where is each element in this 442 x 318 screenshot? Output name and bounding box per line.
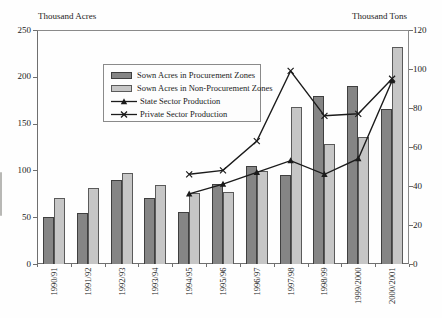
legend-label: Sown Acres in Procurement Zones <box>137 69 255 82</box>
legend-item-private-sector: Private Sector Production <box>111 108 260 121</box>
non-procurement-bar-swatch <box>111 85 132 92</box>
left-axis-tick <box>33 77 37 78</box>
x-marker <box>254 138 260 144</box>
triangle-marker <box>287 157 293 163</box>
bottom-axis-tick <box>206 264 207 267</box>
x-axis-label: 1997/98 <box>285 268 296 314</box>
right-y-axis-label: 120 <box>413 25 441 36</box>
left-y-axis-label: 250 <box>0 25 31 36</box>
left-y-axis-label: 150 <box>0 118 31 129</box>
bottom-axis-tick <box>71 264 72 267</box>
bottom-axis-tick <box>172 264 173 267</box>
right-axis-title: Thousand Tons <box>352 11 407 21</box>
right-axis-tick <box>409 69 413 70</box>
x-axis-label: 1999/2000 <box>353 268 364 314</box>
legend-label: Private Sector Production <box>140 108 227 121</box>
legend-item-non-procurement-zones: Sown Acres in Non-Procurement Zones <box>111 82 260 95</box>
left-axis-title: Thousand Acres <box>38 11 96 21</box>
left-axis-tick <box>33 124 37 125</box>
chart: Thousand Acres Thousand Tons 05010015020… <box>0 0 442 318</box>
right-axis-tick <box>409 108 413 109</box>
x-axis-label: 1992/93 <box>116 268 127 314</box>
left-y-axis-label: 100 <box>0 165 31 176</box>
bottom-axis-tick <box>409 264 410 267</box>
left-y-axis-label: 200 <box>0 71 31 82</box>
x-axis-label: 1996/97 <box>251 268 262 314</box>
left-y-axis-label: 50 <box>0 212 31 223</box>
bottom-axis-tick <box>274 264 275 267</box>
left-axis-tick <box>33 170 37 171</box>
legend-item-state-sector: State Sector Production <box>111 95 260 108</box>
x-axis-label: 1994/95 <box>184 268 195 314</box>
x-axis-label: 1993/94 <box>150 268 161 314</box>
x-axis-label: 1991/92 <box>82 268 93 314</box>
right-axis-tick <box>409 186 413 187</box>
triangle-marker-line-icon <box>111 97 137 106</box>
bottom-axis-tick <box>375 264 376 267</box>
x-axis-label: 1998/99 <box>319 268 330 314</box>
left-y-axis-label: 0 <box>0 259 31 270</box>
triangle-marker <box>355 155 361 161</box>
x-axis-label: 1995/96 <box>218 268 229 314</box>
bottom-axis-tick <box>138 264 139 267</box>
right-axis-tick <box>409 30 413 31</box>
right-y-axis-label: 20 <box>413 220 441 231</box>
x-marker-line-icon <box>111 110 137 119</box>
right-y-axis-label: 40 <box>413 181 441 192</box>
right-axis-tick <box>409 225 413 226</box>
scan-artifact-left-edge <box>0 172 2 216</box>
left-axis-tick <box>33 30 37 31</box>
legend: Sown Acres in Procurement Zones Sown Acr… <box>103 64 261 122</box>
right-y-axis-label: 60 <box>413 142 441 153</box>
x-axis-label: 2000/2001 <box>387 268 398 314</box>
right-y-axis-label: 100 <box>413 64 441 75</box>
legend-item-procurement-zones: Sown Acres in Procurement Zones <box>111 69 260 82</box>
procurement-bar-swatch <box>111 72 132 79</box>
bottom-axis-tick <box>37 264 38 267</box>
bottom-axis-tick <box>341 264 342 267</box>
bottom-axis-tick <box>240 264 241 267</box>
legend-label: State Sector Production <box>140 95 220 108</box>
x-axis-label: 1990/91 <box>48 268 59 314</box>
right-y-axis-label: 0 <box>413 259 441 270</box>
bottom-axis-tick <box>105 264 106 267</box>
left-axis-tick <box>33 217 37 218</box>
x-marker <box>288 68 294 74</box>
right-y-axis-label: 80 <box>413 103 441 114</box>
right-axis-tick <box>409 147 413 148</box>
bottom-axis-tick <box>308 264 309 267</box>
legend-label: Sown Acres in Non-Procurement Zones <box>137 82 273 95</box>
